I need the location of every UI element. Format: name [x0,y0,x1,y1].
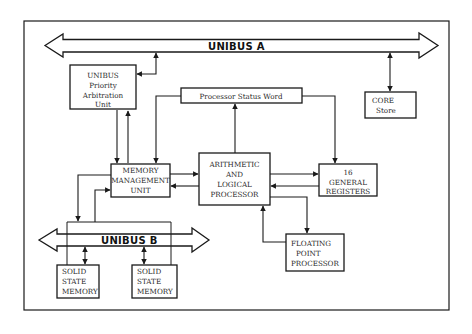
arbitration-unit-box: UNIBUS Priority Arbitration Unit [70,65,136,109]
svg-text:Arbitration: Arbitration [82,91,124,100]
general-registers-box: 16 GENERAL REGISTERS [319,164,377,196]
svg-text:UNIT: UNIT [131,186,151,195]
svg-text:CORE: CORE [372,96,394,105]
svg-text:Priority: Priority [89,81,118,90]
unibus-b-label: UNIBUS B [101,235,158,246]
block-diagram: UNIBUS A UNIBUS B UNIBUS Priority Arbitr… [0,0,472,334]
svg-text:ARITHMETIC: ARITHMETIC [208,160,260,169]
edge-unibus-b-mmu [95,190,110,222]
edge-unibus-a-arbitration [137,53,156,74]
svg-text:MEMORY: MEMORY [62,287,98,296]
core-store-box: CORE Store [365,92,416,118]
svg-text:POINT: POINT [296,249,321,258]
svg-text:MEMORY: MEMORY [123,166,159,175]
solid-state-memory-2-box: SOLID STATE MEMORY [132,265,177,298]
memory-management-unit-box: MEMORY MANAGEMENT UNIT [111,164,170,197]
edge-psw-mmu [156,96,181,163]
svg-text:SOLID: SOLID [62,267,86,276]
svg-text:SOLID: SOLID [137,267,161,276]
svg-text:STATE: STATE [137,277,161,286]
processor-status-word-box: Processor Status Word [181,88,302,103]
svg-text:STATE: STATE [62,277,86,286]
unibus-b-bus: UNIBUS B [39,228,209,252]
alu-box: ARITHMETIC AND LOGICAL PROCESSOR [199,153,270,205]
svg-text:Unit: Unit [95,100,111,109]
svg-text:Store: Store [376,106,396,115]
edge-psw-registers [302,96,335,163]
svg-text:UNIBUS: UNIBUS [87,71,119,80]
svg-text:PROCESSOR: PROCESSOR [211,190,260,199]
edge-alu-fpp [270,197,307,233]
svg-text:FLOATING: FLOATING [291,239,331,248]
svg-text:MANAGEMENT: MANAGEMENT [111,176,170,185]
unibus-a-label: UNIBUS A [208,41,265,52]
edge-fpp-alu [263,206,286,242]
floating-point-processor-box: FLOATING POINT PROCESSOR [286,234,344,271]
svg-text:16: 16 [343,168,353,177]
svg-text:GENERAL: GENERAL [329,178,367,187]
svg-text:AND: AND [225,170,243,179]
svg-text:LOGICAL: LOGICAL [217,180,252,189]
unibus-a-bus: UNIBUS A [45,33,438,58]
solid-state-memory-1-box: SOLID STATE MEMORY [57,265,99,298]
svg-text:REGISTERS: REGISTERS [326,187,371,196]
svg-text:PROCESSOR: PROCESSOR [291,259,340,268]
svg-text:MEMORY: MEMORY [137,287,173,296]
svg-text:Processor Status Word: Processor Status Word [199,92,283,101]
